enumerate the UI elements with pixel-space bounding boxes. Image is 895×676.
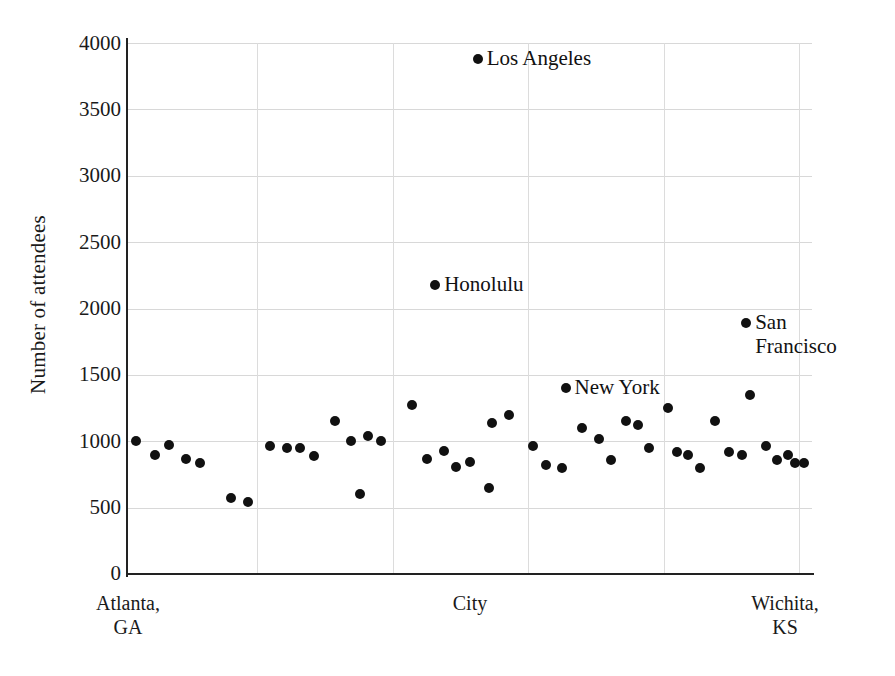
data-point <box>226 493 236 503</box>
data-point <box>606 455 616 465</box>
gridline-vertical-4 <box>799 43 800 574</box>
point-label-honolulu: Honolulu <box>444 272 523 296</box>
data-point-labeled <box>473 54 483 64</box>
gridline-vertical-2 <box>528 43 529 574</box>
data-point <box>737 450 747 460</box>
scatter-plot-figure: Number of attendees 4000 3500 3000 2500 … <box>0 0 895 676</box>
data-point-labeled <box>561 383 571 393</box>
data-point <box>695 463 705 473</box>
data-point <box>557 463 567 473</box>
data-point <box>181 454 191 464</box>
point-label-los-angeles: Los Angeles <box>487 46 591 70</box>
point-label-san-francisco: San Francisco <box>755 310 837 359</box>
plot-area: Los AngelesHonoluluSan FranciscoNew York <box>128 43 812 574</box>
data-point <box>663 403 673 413</box>
gridline-horizontal-3000 <box>128 176 812 177</box>
y-tick-label-0: 0 <box>51 563 121 584</box>
y-axis-line <box>126 38 128 577</box>
y-axis-tick-labels: 4000 3500 3000 2500 2000 1500 1000 500 0 <box>47 0 121 676</box>
x-axis-left-label: Atlanta, GA <box>58 592 198 639</box>
x-axis-title: City <box>400 592 540 616</box>
gridline-horizontal-3500 <box>128 109 812 110</box>
data-point <box>594 434 604 444</box>
point-label-new-york: New York <box>575 375 660 399</box>
gridline-horizontal-4000 <box>128 43 812 44</box>
data-point <box>465 457 475 467</box>
gridline-horizontal-2500 <box>128 242 812 243</box>
data-point <box>265 441 275 451</box>
data-point <box>309 451 319 461</box>
data-point <box>282 443 292 453</box>
gridline-horizontal-500 <box>128 508 812 509</box>
data-point <box>772 455 782 465</box>
y-tick-label-1500: 1500 <box>51 364 121 385</box>
y-tick-label-3500: 3500 <box>51 99 121 120</box>
gridline-horizontal-1000 <box>128 441 812 442</box>
x-axis-line <box>126 573 814 575</box>
gridline-horizontal-2000 <box>128 309 812 310</box>
data-point <box>243 497 253 507</box>
data-point <box>761 441 771 451</box>
gridline-vertical-1 <box>393 43 394 574</box>
data-point <box>195 458 205 468</box>
data-point <box>683 450 693 460</box>
y-tick-label-2500: 2500 <box>51 232 121 253</box>
y-tick-label-2000: 2000 <box>51 298 121 319</box>
data-point <box>799 458 809 468</box>
data-point <box>672 447 682 457</box>
data-point <box>451 462 461 472</box>
y-tick-label-500: 500 <box>51 497 121 518</box>
gridline-horizontal-1500 <box>128 375 812 376</box>
data-point <box>422 454 432 464</box>
y-tick-label-4000: 4000 <box>51 33 121 54</box>
data-point <box>363 431 373 441</box>
x-axis-right-label: Wichita, KS <box>715 592 855 639</box>
data-point <box>295 443 305 453</box>
y-tick-label-1000: 1000 <box>51 431 121 452</box>
data-point <box>330 416 340 426</box>
gridline-vertical-3 <box>664 43 665 574</box>
data-point <box>131 436 141 446</box>
data-point <box>487 418 497 428</box>
data-point <box>150 450 160 460</box>
data-point <box>621 416 631 426</box>
gridline-vertical-0 <box>257 43 258 574</box>
y-tick-label-3000: 3000 <box>51 165 121 186</box>
data-point <box>745 390 755 400</box>
data-point <box>504 410 514 420</box>
